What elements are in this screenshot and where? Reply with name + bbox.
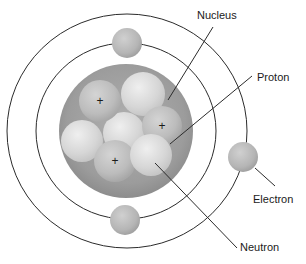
plus-charge-icon: + bbox=[111, 154, 118, 168]
plus-charge-icon: + bbox=[158, 119, 165, 133]
neutron-particle bbox=[130, 134, 172, 176]
proton-label: Proton bbox=[257, 71, 289, 83]
neutron-leader-line bbox=[155, 163, 237, 248]
neutron-label: Neutron bbox=[240, 241, 279, 253]
labels: Nucleus Proton Electron Neutron bbox=[197, 9, 293, 253]
electron-leader-line bbox=[255, 168, 275, 186]
electron-right bbox=[228, 142, 258, 172]
electron-top bbox=[112, 28, 142, 58]
plus-charge-icon: + bbox=[96, 94, 103, 108]
atom-diagram-canvas: +++ Nucleus Proton Electron Neutron bbox=[0, 0, 306, 264]
electron-label: Electron bbox=[253, 193, 293, 205]
atom-diagram: +++ Nucleus Proton Electron Neutron bbox=[0, 0, 306, 264]
electron-bottom bbox=[110, 205, 140, 235]
nucleus-leader-line bbox=[168, 27, 213, 100]
nucleus-label: Nucleus bbox=[197, 9, 237, 21]
